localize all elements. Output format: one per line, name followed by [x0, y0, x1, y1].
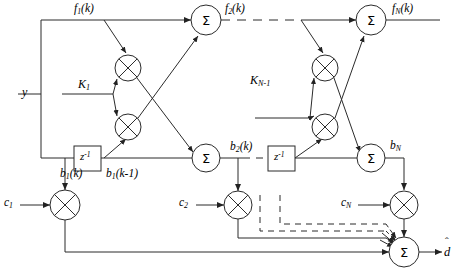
summer-nodes: Σ Σ Σ Σ Σ	[191, 5, 419, 267]
mult-kN1-lower	[312, 114, 338, 140]
mult-c2	[224, 191, 252, 219]
label-output-hat-accent: ˆ	[445, 235, 449, 247]
wire-f1-tap-to-mult-upper	[104, 20, 126, 53]
wire-mult-lower-to-sum-f2	[138, 36, 198, 118]
sum-fN-sigma: Σ	[367, 13, 375, 28]
wire-kN1-to-mult-upper	[310, 78, 314, 118]
wire-k1-to-mult-lower	[113, 94, 117, 116]
label-f1: f1(k)	[74, 3, 94, 16]
sum-b2-sigma: Σ	[202, 151, 210, 166]
label-b1k: b1(k)	[60, 168, 82, 181]
label-bN: bN	[390, 140, 401, 153]
wire-group	[18, 20, 442, 252]
diagram-canvas: Σ Σ Σ Σ Σ	[0, 0, 457, 271]
label-fN: fN(k)	[392, 3, 413, 16]
wire-b1d-to-mult-lower	[104, 139, 126, 158]
mult-k1-upper	[115, 55, 141, 81]
lattice-ladder-filter-diagram: Σ Σ Σ Σ Σ	[0, 0, 457, 271]
label-input-y: y	[22, 86, 27, 98]
label-cN: cN	[341, 197, 351, 210]
label-b2k: b2(k)	[230, 141, 252, 154]
label-output-dhat: d	[444, 246, 450, 259]
wire-mult-upper-to-sum-b2	[137, 78, 193, 152]
wire-bNd-to-mult-lower	[295, 139, 322, 158]
multiplier-nodes	[50, 55, 418, 220]
mult-k1-lower	[115, 114, 141, 140]
wire-k1-to-mult-upper	[113, 79, 117, 94]
label-b1k-1: b1(k-1)	[106, 168, 138, 181]
label-k1: K1	[78, 78, 90, 92]
wire-fN1-tap-to-mult-upper	[301, 20, 323, 53]
sum-f2-sigma: Σ	[202, 13, 210, 28]
mult-kN1-upper	[312, 55, 338, 81]
wire-multN-upper-to-sum-bN	[334, 78, 360, 152]
mult-cN	[390, 191, 418, 219]
label-kN-1: KN-1	[250, 74, 270, 88]
sum-bN-sigma: Σ	[367, 151, 375, 166]
label-c1: c1	[4, 197, 13, 210]
wire-multN-lower-to-sum-fN	[335, 36, 364, 118]
label-f2: f2(k)	[225, 3, 245, 16]
label-delay-2: z-1	[274, 151, 285, 162]
label-delay-1: z-1	[80, 151, 91, 162]
label-c2: c2	[179, 197, 188, 210]
wire-dashed-tap-a	[280, 195, 386, 224]
mult-c1	[50, 190, 80, 220]
sum-output-sigma: Σ	[400, 245, 408, 260]
wire-dashed-tap-b	[260, 195, 386, 231]
